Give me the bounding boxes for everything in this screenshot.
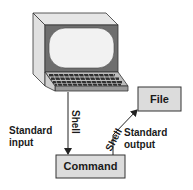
command-label: Command [64, 160, 118, 172]
file-box: File [138, 87, 181, 111]
shell-input-label: Shell [70, 110, 81, 134]
screen [49, 28, 114, 68]
shell-output-label: Shell [103, 126, 124, 152]
standard-input-label-line1: Standard [9, 125, 52, 136]
standard-output-label-line1: Standard [124, 127, 167, 138]
diagram-canvas: Shell Standard input Command Shell Stand… [0, 0, 193, 190]
standard-input-label-line2: input [9, 137, 34, 148]
terminal-icon [33, 13, 128, 91]
file-label: File [150, 93, 169, 105]
command-box: Command [56, 155, 125, 178]
standard-output-label-line2: output [124, 139, 156, 150]
